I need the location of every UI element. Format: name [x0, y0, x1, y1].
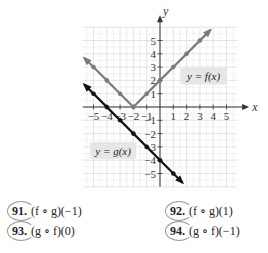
data-point [198, 38, 203, 43]
x-axis-label: x [251, 100, 258, 114]
data-point [171, 65, 176, 70]
problem-91: 91.(f ∘ g)(−1) [12, 204, 82, 219]
data-point [118, 118, 123, 123]
problem-expression: (g ∘ f)(0) [31, 224, 75, 238]
problem-number: 94. [170, 224, 185, 238]
g-label: y = g(x) [94, 145, 131, 158]
data-point [158, 78, 163, 83]
x-tick-label: 3 [197, 110, 203, 122]
data-point [91, 65, 96, 70]
problem-expression: (f ∘ g)(−1) [31, 204, 82, 218]
problem-expression: (f ∘ g)(1) [189, 204, 233, 218]
data-point [91, 91, 96, 96]
y-tick-label: −2 [144, 128, 156, 140]
y-tick-label: −5 [144, 168, 156, 180]
x-tick-label: 5 [224, 110, 230, 122]
x-axis-arrow-icon [242, 104, 249, 110]
problem-93: 93.(g ∘ f)(0) [12, 224, 75, 239]
y-tick-label: 4 [151, 48, 157, 60]
y-tick-label: −1 [144, 114, 156, 126]
data-point [158, 158, 163, 163]
data-point [131, 105, 136, 110]
data-point [171, 171, 176, 176]
problem-expression: (g ∘ f)(−1) [189, 224, 240, 238]
problem-94: 94.(g ∘ f)(−1) [170, 224, 240, 239]
data-point [144, 91, 149, 96]
x-tick-label: 1 [171, 110, 177, 122]
x-tick-label: −5 [88, 110, 100, 122]
problem-number: 93. [12, 224, 27, 238]
function-graph: xy −5−4−3−2−112345−5−4−3−2−112345 y = f(… [0, 0, 268, 200]
problem-92: 92.(f ∘ g)(1) [170, 204, 233, 219]
y-tick-label: 5 [151, 35, 157, 47]
problem-number: 91. [12, 204, 27, 218]
axes: xy [83, 4, 258, 187]
y-tick-label: 3 [151, 61, 157, 73]
data-point [118, 91, 123, 96]
problem-number: 92. [170, 204, 185, 218]
x-tick-label: 4 [210, 110, 216, 122]
data-point [105, 78, 110, 83]
y-axis-label: y [162, 4, 169, 18]
data-point [144, 145, 149, 150]
f-label: y = f(x) [186, 70, 220, 83]
data-point [131, 131, 136, 136]
data-point [184, 52, 189, 57]
x-tick-label: 2 [184, 110, 190, 122]
data-point [105, 105, 110, 110]
x-tick-label: −2 [128, 110, 140, 122]
